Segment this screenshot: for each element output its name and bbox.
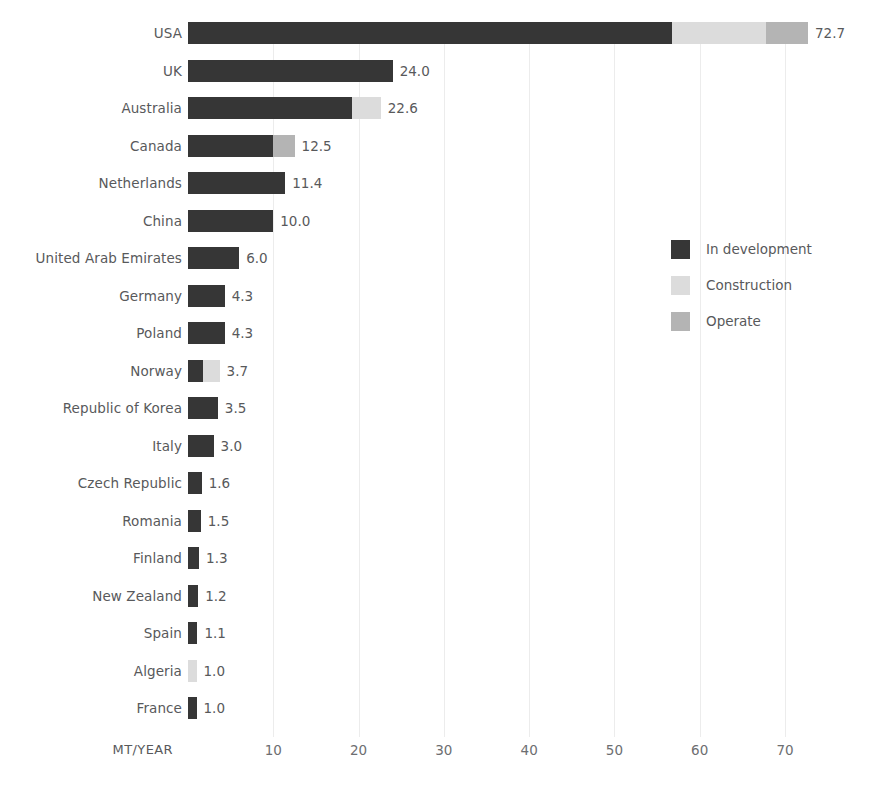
bar-row-label: Germany	[119, 288, 182, 304]
legend-label: In development	[706, 241, 812, 257]
bar-value-label: 72.7	[815, 25, 845, 41]
bar-row-label: Netherlands	[99, 175, 182, 191]
legend-swatch-icon	[671, 276, 690, 295]
bar-segment-in-development	[188, 135, 273, 157]
bar-segment-in-development	[188, 22, 672, 44]
bar-value-label: 1.0	[204, 663, 225, 679]
x-axis-tick-label: 60	[691, 742, 708, 758]
bar-row: Republic of Korea3.5	[188, 397, 785, 419]
bar-segment-in-development	[188, 435, 214, 457]
stacked-bar	[188, 210, 273, 232]
bar-segment-operate	[766, 22, 808, 44]
stacked-bar	[188, 60, 393, 82]
bar-row-label: Algeria	[134, 663, 182, 679]
bar-segment-in-development	[188, 247, 239, 269]
bar-segment-in-development	[188, 622, 197, 644]
bar-segment-construction	[188, 660, 197, 682]
bar-segment-construction	[203, 360, 219, 382]
bar-value-label: 12.5	[302, 138, 332, 154]
bar-segment-in-development	[188, 172, 285, 194]
plot-area: USA72.7UK24.0Australia22.6Canada12.5Neth…	[188, 22, 785, 737]
bar-segment-in-development	[188, 547, 199, 569]
bar-segment-in-development	[188, 322, 225, 344]
bar-row: UK24.0	[188, 60, 785, 82]
bar-value-label: 3.5	[225, 400, 246, 416]
legend-swatch-icon	[671, 312, 690, 331]
bar-row-label: Poland	[136, 325, 182, 341]
bar-segment-in-development	[188, 210, 273, 232]
legend-label: Operate	[706, 313, 761, 329]
bar-segment-in-development	[188, 285, 225, 307]
stacked-bar	[188, 585, 198, 607]
bar-value-label: 3.7	[227, 363, 248, 379]
legend-item[interactable]: Construction	[671, 267, 812, 303]
bar-segment-in-development	[188, 585, 198, 607]
bar-segment-construction	[352, 97, 381, 119]
bar-segment-construction	[672, 22, 766, 44]
stacked-bar	[188, 322, 225, 344]
x-axis-tick-label: 10	[265, 742, 282, 758]
stacked-bar	[188, 547, 199, 569]
bar-row-label: Norway	[130, 363, 182, 379]
bar-segment-operate	[273, 135, 294, 157]
stacked-bar	[188, 510, 201, 532]
stacked-bar	[188, 397, 218, 419]
bar-value-label: 1.0	[204, 700, 225, 716]
bar-row-label: Spain	[144, 625, 182, 641]
legend-item[interactable]: In development	[671, 231, 812, 267]
bar-row-label: China	[143, 213, 182, 229]
bar-value-label: 4.3	[232, 325, 253, 341]
bar-row: Netherlands11.4	[188, 172, 785, 194]
bar-row: Algeria1.0	[188, 660, 785, 682]
bar-segment-in-development	[188, 97, 352, 119]
bar-row: China10.0	[188, 210, 785, 232]
stacked-bar	[188, 435, 214, 457]
bar-row: Australia22.6	[188, 97, 785, 119]
bar-value-label: 1.3	[206, 550, 227, 566]
bar-row-label: Republic of Korea	[63, 400, 182, 416]
stacked-bar	[188, 247, 239, 269]
stacked-bar	[188, 472, 202, 494]
bar-row-label: United Arab Emirates	[36, 250, 182, 266]
bar-row: Canada12.5	[188, 135, 785, 157]
stacked-bar	[188, 135, 295, 157]
bar-value-label: 10.0	[280, 213, 310, 229]
stacked-bar	[188, 660, 197, 682]
x-axis-tick-label: 40	[521, 742, 538, 758]
bar-row-label: Canada	[130, 138, 182, 154]
bar-row: Italy3.0	[188, 435, 785, 457]
x-axis-tick-label: 50	[606, 742, 623, 758]
stacked-bar	[188, 22, 808, 44]
bar-row: USA72.7	[188, 22, 785, 44]
stacked-bar	[188, 697, 197, 719]
bar-segment-in-development	[188, 60, 393, 82]
bar-row-label: Czech Republic	[78, 475, 182, 491]
stacked-bar	[188, 172, 285, 194]
bar-value-label: 22.6	[388, 100, 418, 116]
bar-row: Romania1.5	[188, 510, 785, 532]
bar-segment-in-development	[188, 697, 197, 719]
x-axis-tick-label: 20	[350, 742, 367, 758]
bar-value-label: 6.0	[246, 250, 267, 266]
stacked-bar	[188, 97, 381, 119]
bar-row-label: France	[137, 700, 183, 716]
x-axis-tick-label: 70	[776, 742, 793, 758]
bar-segment-in-development	[188, 510, 201, 532]
bar-segment-in-development	[188, 397, 218, 419]
stacked-bar	[188, 360, 220, 382]
bar-row: Norway3.7	[188, 360, 785, 382]
bar-row: Spain1.1	[188, 622, 785, 644]
bar-value-label: 1.6	[209, 475, 230, 491]
bar-segment-in-development	[188, 360, 203, 382]
bar-segment-in-development	[188, 472, 202, 494]
x-axis-tick-label: 30	[435, 742, 452, 758]
bar-row-label: Australia	[121, 100, 182, 116]
bar-row: Finland1.3	[188, 547, 785, 569]
legend-label: Construction	[706, 277, 792, 293]
bar-row-label: UK	[163, 63, 182, 79]
legend-item[interactable]: Operate	[671, 303, 812, 339]
bar-value-label: 24.0	[400, 63, 430, 79]
bar-row: France1.0	[188, 697, 785, 719]
bar-row: Czech Republic1.6	[188, 472, 785, 494]
x-axis: 10203040506070	[188, 742, 785, 768]
